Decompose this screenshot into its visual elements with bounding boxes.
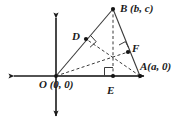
triangle-sides — [56, 9, 140, 76]
right-angle-at-F — [119, 42, 129, 48]
label-vertex-a: A(a, 0) — [140, 61, 171, 72]
altitudes — [56, 9, 140, 76]
point-D — [84, 37, 88, 41]
figure-canvas: B (b, c) A(a, 0) O (0, 0) D F E — [0, 0, 179, 129]
label-vertex-b: B (b, c) — [120, 3, 153, 14]
label-foot-e: E — [107, 85, 114, 96]
label-foot-d: D — [72, 31, 80, 42]
point-A — [138, 74, 142, 78]
label-origin: O (0, 0) — [39, 79, 74, 90]
point-F — [126, 50, 130, 54]
labelled-points — [54, 7, 142, 78]
point-E — [111, 74, 115, 78]
point-B — [111, 7, 115, 11]
right-angle-marks — [90, 36, 129, 77]
segment-OB — [56, 9, 113, 76]
label-foot-f: F — [132, 43, 139, 54]
